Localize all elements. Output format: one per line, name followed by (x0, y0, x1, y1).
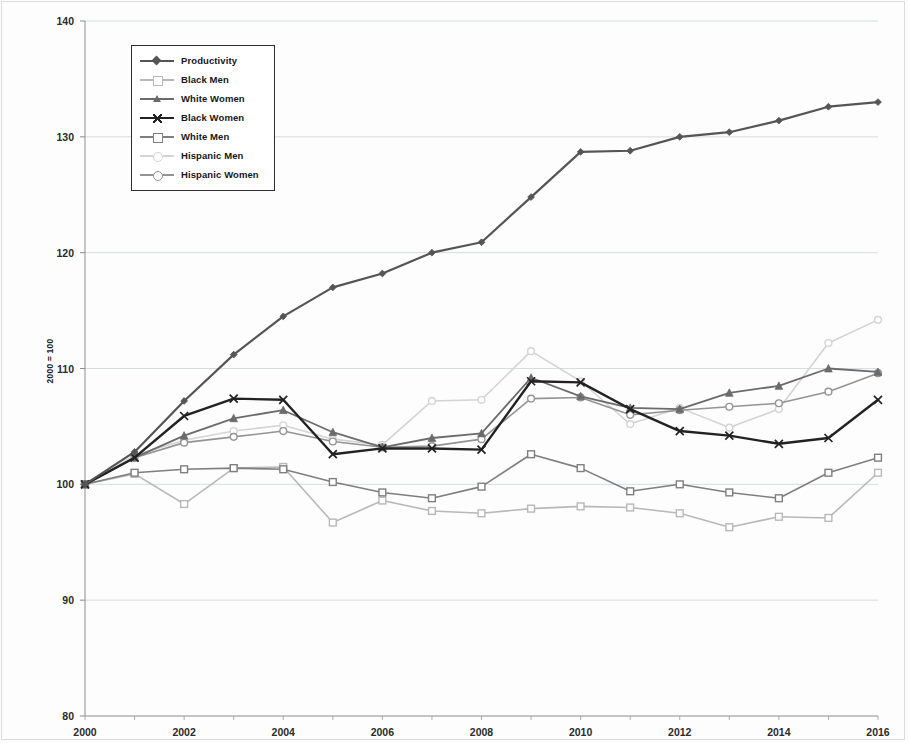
data-point-marker (379, 270, 386, 277)
data-point-marker (329, 519, 336, 526)
data-point-marker (726, 524, 733, 531)
data-point-marker (131, 469, 138, 476)
data-point-marker (379, 489, 386, 496)
data-point-marker (577, 465, 584, 472)
data-point-marker (775, 513, 782, 520)
x-tick-label: 2016 (866, 726, 890, 738)
data-point-marker (676, 481, 683, 488)
x-tick-label: 2006 (371, 726, 395, 738)
x-tick-label: 2000 (73, 726, 97, 738)
y-tick-label: 90 (62, 594, 74, 606)
y-tick-label: 130 (56, 131, 74, 143)
y-axis-title-label: 2000 = 100 (45, 339, 55, 384)
chart-legend: ProductivityBlack MenWhite WomenBlack Wo… (131, 45, 275, 191)
data-point-marker (528, 505, 535, 512)
data-point-marker (775, 117, 782, 124)
data-point-marker (478, 510, 485, 517)
data-point-marker (478, 396, 485, 403)
y-tick-label: 110 (57, 363, 74, 375)
data-point-marker (379, 497, 386, 504)
data-point-marker (429, 495, 436, 502)
data-point-marker (627, 488, 634, 495)
data-point-marker (825, 515, 832, 522)
data-point-marker (874, 396, 882, 404)
legend-item[interactable]: Black Women (132, 108, 274, 127)
legend-item[interactable]: White Men (132, 127, 274, 146)
legend-item-label: White Women (181, 93, 245, 104)
data-point-marker (181, 439, 188, 446)
data-point-marker (825, 469, 832, 476)
data-point-marker (775, 495, 782, 502)
y-tick-label: 100 (56, 478, 74, 490)
x-tick-labels-group: 200020022004200620082010201220142016 (73, 726, 890, 738)
data-point-marker (181, 466, 188, 473)
data-point-marker (528, 395, 535, 402)
x-tick-label: 2002 (172, 726, 196, 738)
data-point-marker (775, 400, 782, 407)
y-tick-label: 80 (62, 710, 74, 722)
legend-item[interactable]: Productivity (132, 51, 274, 70)
legend-swatch-square-icon (140, 131, 174, 143)
legend-item[interactable]: Black Men (132, 70, 274, 89)
data-point-marker (825, 388, 832, 395)
series-line (85, 369, 878, 485)
y-tick-labels-group: 8090100110120130140 (56, 15, 74, 722)
data-point-marker (676, 510, 683, 517)
legend-swatch-triangle-icon (140, 93, 174, 105)
legend-item[interactable]: White Women (132, 89, 274, 108)
legend-swatch-diamond-icon (140, 55, 174, 67)
legend-swatch-circle-icon (140, 150, 174, 162)
x-tick-label: 2008 (470, 726, 494, 738)
legend-item[interactable]: Hispanic Men (132, 146, 274, 165)
data-point-marker (478, 483, 485, 490)
data-point-marker (825, 103, 832, 110)
legend-item[interactable]: Hispanic Women (132, 165, 274, 184)
legend-swatch-circle-icon (140, 169, 174, 181)
data-point-marker (676, 133, 683, 140)
legend-swatch-square-icon (140, 74, 174, 86)
legend-item-label: Black Men (181, 74, 229, 85)
data-point-marker (280, 466, 287, 473)
data-point-marker (726, 129, 733, 136)
data-point-marker (429, 249, 436, 256)
data-point-marker (726, 424, 733, 431)
series-hispanic-men (82, 316, 882, 487)
y-tick-label: 140 (56, 15, 74, 27)
data-point-marker (429, 398, 436, 405)
data-point-marker (230, 433, 237, 440)
data-point-marker (875, 454, 882, 461)
series-white-men (82, 451, 882, 502)
data-point-marker (875, 99, 882, 106)
data-point-marker (726, 403, 733, 410)
chart-container: 8090100110120130140 20002002200420062008… (0, 0, 908, 743)
data-point-marker (230, 465, 237, 472)
data-point-marker (875, 316, 882, 323)
data-point-marker (329, 438, 336, 445)
legend-item-label: White Men (181, 131, 229, 142)
legend-item-label: Black Women (181, 112, 244, 123)
x-tick-label: 2004 (272, 726, 296, 738)
x-tick-label: 2014 (767, 726, 791, 738)
x-tick-label: 2012 (668, 726, 692, 738)
data-point-marker (280, 428, 287, 435)
data-point-marker (627, 147, 634, 154)
series-line (85, 454, 878, 498)
legend-swatch-cross-icon (140, 112, 174, 124)
data-point-marker (528, 451, 535, 458)
legend-item-label: Hispanic Women (181, 169, 259, 180)
y-axis-title: 2000 = 100 (39, 321, 57, 401)
series-line (85, 467, 878, 527)
data-point-marker (528, 348, 535, 355)
y-tick-label: 120 (56, 247, 74, 259)
data-point-marker (825, 340, 832, 347)
data-point-marker (429, 508, 436, 515)
data-point-marker (726, 489, 733, 496)
data-point-marker (577, 503, 584, 510)
legend-item-label: Productivity (181, 55, 237, 66)
data-point-marker (181, 501, 188, 508)
series-black-men (82, 464, 882, 531)
legend-item-label: Hispanic Men (181, 150, 243, 161)
x-tick-label: 2010 (569, 726, 593, 738)
data-point-marker (329, 479, 336, 486)
data-point-marker (627, 421, 634, 428)
